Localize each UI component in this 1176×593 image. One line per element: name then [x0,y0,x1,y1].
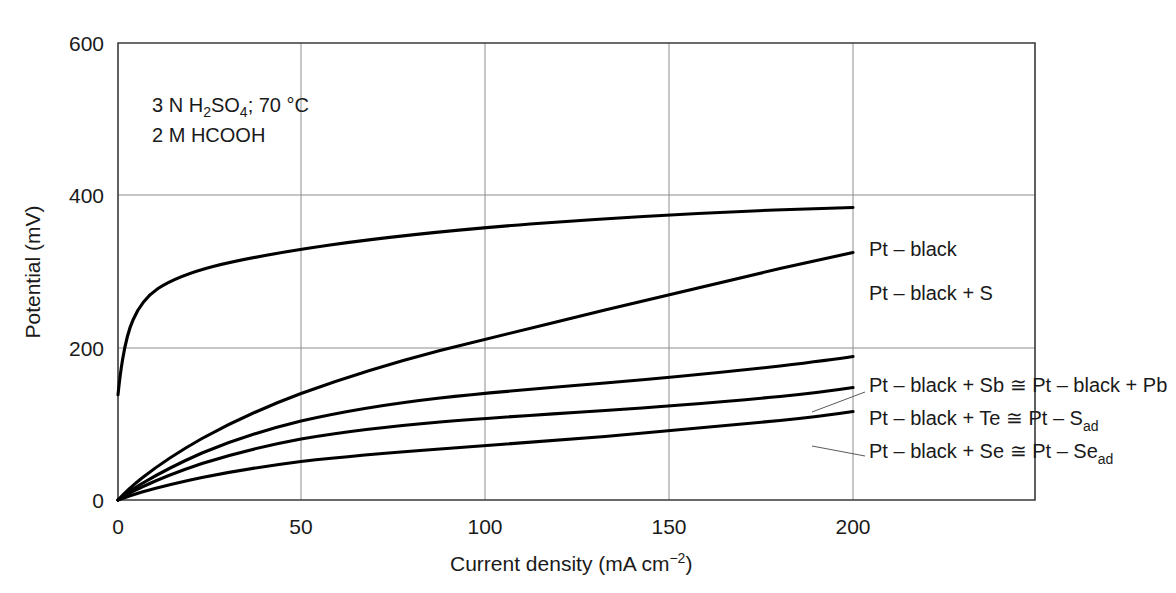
y-axis-title: Potential (mV) [21,205,44,338]
x-axis-title-text: Current density (mA cm−2) [450,550,692,575]
series-label-pt-black-s: Pt – black + S [869,282,993,304]
x-tick-150: 150 [651,515,686,538]
annotation-acid-prefix: 3 N H [152,94,203,116]
annotation-so: SO [211,94,240,116]
x-tick-50: 50 [289,515,312,538]
annotation-line-2: 2 M HCOOH [152,124,265,146]
annotation-sub-4: 4 [240,104,248,120]
polarization-curve-chart: 600 400 200 0 0 50 100 150 200 Potential… [0,0,1176,593]
series-label-te-sub: ad [1083,418,1099,434]
x-axis-title: Current density (mA cm−2) [450,550,692,575]
series-label-se-main: Pt – black + Se ≅ Pt – Se [869,440,1098,462]
x-tick-0: 0 [112,515,124,538]
y-tick-400: 400 [69,184,104,207]
figure-container: 600 400 200 0 0 50 100 150 200 Potential… [0,0,1176,593]
x-axis-ticks: 0 50 100 150 200 [112,515,870,538]
leader-line-sb [812,392,865,412]
x-axis-title-main: Current density (mA cm [450,552,669,575]
series-label-pt-black: Pt – black [869,238,958,260]
y-tick-600: 600 [69,32,104,55]
x-axis-title-sup: −2 [669,550,685,566]
series-label-se-sub: ad [1098,451,1114,467]
y-tick-0: 0 [92,489,104,512]
x-axis-title-end: ) [685,552,692,575]
series-labels: Pt – black Pt – black + S Pt – black + S… [869,238,1167,467]
x-tick-200: 200 [835,515,870,538]
series-label-pt-black-sb: Pt – black + Sb ≅ Pt – black + Pb [869,374,1167,396]
series-label-pt-black-se: Pt – black + Se ≅ Pt – Sead [869,440,1113,467]
conditions-annotation: 3 N H2SO4; 70 °C 2 M HCOOH [152,94,309,146]
annotation-sub-2: 2 [203,104,211,120]
series-label-pt-black-te: Pt – black + Te ≅ Pt – Sad [869,407,1099,434]
annotation-line-1: 3 N H2SO4; 70 °C [152,94,309,120]
series-label-te-main: Pt – black + Te ≅ Pt – S [869,407,1083,429]
x-tick-100: 100 [467,515,502,538]
annotation-temp: ; 70 °C [248,94,309,116]
label-leader-lines [812,392,865,456]
leader-line-se [812,446,865,456]
y-tick-200: 200 [69,337,104,360]
y-axis-ticks: 600 400 200 0 [69,32,104,512]
